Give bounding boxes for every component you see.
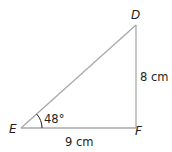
angle-label-e: 48°: [44, 112, 64, 126]
triangle-def: [21, 25, 136, 128]
vertex-label-f: F: [135, 124, 143, 138]
vertex-label-e: E: [9, 122, 17, 136]
angle-arc-e: [37, 114, 42, 128]
side-label-ef: 9 cm: [65, 135, 94, 149]
vertex-label-d: D: [131, 8, 140, 22]
side-ed: [21, 25, 136, 128]
triangle-diagram: D E F 8 cm 9 cm 48°: [0, 0, 172, 152]
side-label-df: 8 cm: [140, 70, 169, 84]
